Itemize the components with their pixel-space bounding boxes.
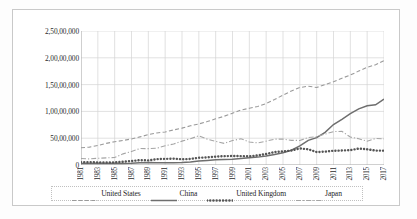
y-tick-label: 1,50,00,000 bbox=[45, 82, 79, 90]
x-tick-label: 2007 bbox=[296, 167, 304, 181]
legend-item: China bbox=[151, 189, 198, 198]
y-tick-label: 1,00,00,000 bbox=[45, 108, 79, 116]
chart-canvas bbox=[81, 31, 384, 165]
legend-item: United States bbox=[72, 189, 140, 198]
plot-area bbox=[81, 31, 384, 165]
legend-key-icon bbox=[296, 190, 322, 197]
chart-legend: United StatesChinaUnited KingdomJapan bbox=[51, 186, 363, 201]
y-tick-label: 2,00,00,000 bbox=[45, 55, 79, 63]
x-tick-label: 1983 bbox=[94, 167, 102, 181]
x-tick-label: 1997 bbox=[212, 167, 220, 181]
chart-frame: 050,00,0001,00,00,0001,50,00,0002,00,00,… bbox=[12, 9, 400, 206]
legend-label: United Kingdom bbox=[236, 189, 286, 198]
legend-key-icon bbox=[151, 190, 177, 197]
x-tick-label: 1991 bbox=[161, 167, 169, 181]
legend-label: Japan bbox=[325, 189, 342, 198]
x-tick-label: 2009 bbox=[313, 167, 321, 181]
x-tick-label: 1993 bbox=[178, 167, 186, 181]
chart-figure: 050,00,0001,00,00,0001,50,00,0002,00,00,… bbox=[0, 0, 417, 219]
legend-label: United States bbox=[101, 189, 140, 198]
x-tick-label: 1987 bbox=[128, 167, 136, 181]
x-tick-label: 1995 bbox=[195, 167, 203, 181]
legend-item: United Kingdom bbox=[207, 189, 286, 198]
x-tick-label: 2005 bbox=[279, 167, 287, 181]
x-tick-label: 1989 bbox=[144, 167, 152, 181]
x-tick-label: 2011 bbox=[330, 167, 338, 180]
legend-key-icon bbox=[207, 190, 233, 197]
legend-item: Japan bbox=[296, 189, 342, 198]
x-tick-label: 1985 bbox=[111, 167, 119, 181]
x-tick-label: 2001 bbox=[245, 167, 253, 181]
x-tick-label: 1981 bbox=[77, 167, 85, 181]
legend-key-icon bbox=[72, 190, 98, 197]
x-tick-label: 2013 bbox=[346, 167, 354, 181]
legend-label: China bbox=[180, 189, 198, 198]
y-tick-label: 2,50,00,000 bbox=[45, 28, 79, 36]
x-tick-label: 2017 bbox=[380, 167, 388, 181]
x-tick-label: 2015 bbox=[363, 167, 371, 181]
y-tick-label: 50,00,000 bbox=[50, 135, 79, 143]
x-tick-label: 1999 bbox=[229, 167, 237, 181]
y-axis-tick-labels: 050,00,0001,00,00,0001,50,00,0002,00,00,… bbox=[19, 32, 79, 172]
x-tick-label: 2003 bbox=[262, 167, 270, 181]
